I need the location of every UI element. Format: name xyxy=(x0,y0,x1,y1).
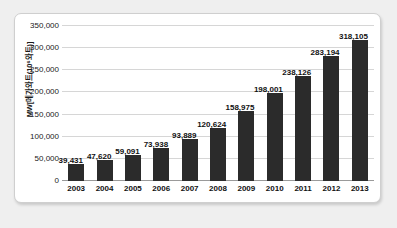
x-axis-tick-label: 2005 xyxy=(124,184,142,193)
bar-value-label: 198,001 xyxy=(254,85,283,94)
bar-value-label: 59,091 xyxy=(115,147,139,156)
x-axis-tick-label: 2008 xyxy=(209,184,227,193)
y-axis-tick-label: 0 xyxy=(55,176,59,185)
bar-value-label: 318,105 xyxy=(339,32,368,41)
bar-group: 318,1052013 xyxy=(346,26,374,181)
x-axis-tick-label: 2012 xyxy=(323,184,341,193)
bar-value-label: 238,126 xyxy=(282,68,311,77)
plot-area: 050,000100,000150,000200,000250,000300,0… xyxy=(62,26,374,181)
y-axis-tick-label: 100,000 xyxy=(30,131,59,140)
x-axis-tick-label: 2013 xyxy=(351,184,369,193)
bar: 198,001 xyxy=(267,93,283,181)
bar-value-label: 283,194 xyxy=(311,48,340,57)
x-axis-tick-label: 2007 xyxy=(181,184,199,193)
bar: 158,975 xyxy=(238,111,254,181)
bar-group: 198,0012010 xyxy=(261,26,289,181)
y-axis-tick-label: 50,000 xyxy=(35,153,59,162)
y-axis-tick-label: 250,000 xyxy=(30,65,59,74)
bar: 120,624 xyxy=(210,128,226,181)
x-axis-tick-label: 2009 xyxy=(237,184,255,193)
x-axis-tick-label: 2003 xyxy=(67,184,85,193)
bar: 93,889 xyxy=(182,139,198,181)
bar-group: 93,8892007 xyxy=(175,26,203,181)
bar-group: 73,9382006 xyxy=(147,26,175,181)
bar-group: 59,0912005 xyxy=(119,26,147,181)
bar: 73,938 xyxy=(153,148,169,181)
chart-panel: MW[메가와트(10⁶와트)] 050,000100,000150,000200… xyxy=(14,13,381,203)
bar: 238,126 xyxy=(295,76,311,181)
bar-value-label: 39,431 xyxy=(59,156,83,165)
bar-value-label: 73,938 xyxy=(144,140,168,149)
bar-value-label: 47,620 xyxy=(87,152,111,161)
bar-group: 158,9752009 xyxy=(232,26,260,181)
bar-series: 39,431200347,620200459,091200573,9382006… xyxy=(62,26,374,181)
y-axis-tick-label: 200,000 xyxy=(30,87,59,96)
x-axis-tick-label: 2011 xyxy=(294,184,311,193)
y-axis-tick-label: 350,000 xyxy=(30,21,59,30)
bar-value-label: 158,975 xyxy=(226,103,255,112)
y-axis-tick-label: 300,000 xyxy=(30,43,59,52)
x-axis-tick-label: 2004 xyxy=(96,184,114,193)
bar-group: 47,6202004 xyxy=(90,26,118,181)
bar-group: 283,1942012 xyxy=(317,26,345,181)
bar: 39,431 xyxy=(68,164,84,181)
y-axis-tick-label: 150,000 xyxy=(30,109,59,118)
x-axis-tick-label: 2006 xyxy=(152,184,170,193)
bar: 59,091 xyxy=(125,155,141,181)
bar: 47,620 xyxy=(97,160,113,181)
bar-value-label: 93,889 xyxy=(172,131,196,140)
y-axis-label: MW[메가와트(10⁶와트)] xyxy=(23,15,34,145)
bar: 283,194 xyxy=(323,56,339,181)
bar: 318,105 xyxy=(352,40,368,181)
bar-value-label: 120,624 xyxy=(197,120,226,129)
x-axis-tick-label: 2010 xyxy=(266,184,284,193)
